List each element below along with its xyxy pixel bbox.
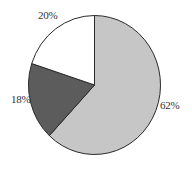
slice-label-62: 62%: [160, 100, 179, 111]
slice-label-20: 20%: [38, 10, 57, 21]
pie-chart: [0, 0, 192, 169]
slice-label-18: 18%: [11, 94, 30, 105]
pie-slices: [28, 16, 160, 155]
